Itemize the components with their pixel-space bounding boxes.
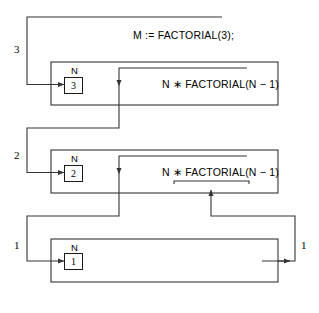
underbrace-frame-2: [174, 181, 249, 184]
var-name-frame-3: N: [71, 66, 78, 76]
depth-label-2: 2: [14, 150, 20, 161]
var-value-frame-1: 1: [71, 256, 76, 267]
activation-frame-1: [51, 239, 278, 282]
var-box-frame-2: 2: [64, 165, 83, 182]
depth-label-1: 1: [14, 240, 20, 251]
var-name-frame-2: N: [71, 154, 78, 164]
return-edge-frame-1-to-frame-2: [211, 190, 295, 261]
diagram-connectors: [0, 0, 319, 313]
expression-frame-2: N ∗ FACTORIAL(N − 1): [162, 167, 279, 178]
var-value-frame-3: 3: [71, 80, 76, 91]
call-edge-top-to-frame-3: [27, 17, 222, 85]
depth-label-3: 3: [14, 44, 20, 55]
var-name-frame-1: N: [71, 243, 78, 253]
factorial-recursion-diagram: M := FACTORIAL(3); 3 2 1 1 N 3 N ∗ FACTO…: [0, 0, 319, 313]
return-depth-label-1: 1: [301, 240, 307, 251]
top-level-call-label: M := FACTORIAL(3);: [133, 30, 234, 41]
expression-frame-3: N ∗ FACTORIAL(N − 1): [162, 79, 279, 90]
var-box-frame-3: 3: [64, 77, 83, 94]
var-box-frame-1: 1: [64, 253, 83, 270]
var-value-frame-2: 2: [71, 168, 76, 179]
